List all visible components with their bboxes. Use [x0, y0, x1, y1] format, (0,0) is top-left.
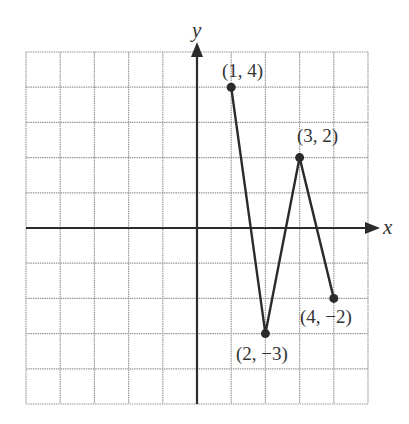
- y-axis-arrow-icon: [191, 42, 203, 57]
- data-point-dot: [329, 294, 338, 303]
- point-labels: (1, 4) (2, −3) (3, 2) (4, −2): [222, 60, 352, 365]
- data-point-dot: [261, 329, 270, 338]
- point-label-1-4: (1, 4): [222, 60, 263, 82]
- y-axis-label: y: [190, 18, 202, 42]
- point-label-3-2: (3, 2): [297, 125, 338, 147]
- coordinate-plane: x y (1, 4) (2, −3) (3, 2) (4, −2): [0, 0, 409, 424]
- x-axis-arrow-icon: [365, 222, 380, 234]
- x-axis-label: x: [382, 215, 393, 239]
- data-point-dot: [227, 83, 236, 92]
- point-label-4-neg2: (4, −2): [300, 306, 352, 328]
- point-label-2-neg3: (2, −3): [236, 343, 288, 365]
- data-point-dot: [295, 153, 304, 162]
- data-points: [227, 83, 339, 338]
- axes: x y: [26, 18, 393, 404]
